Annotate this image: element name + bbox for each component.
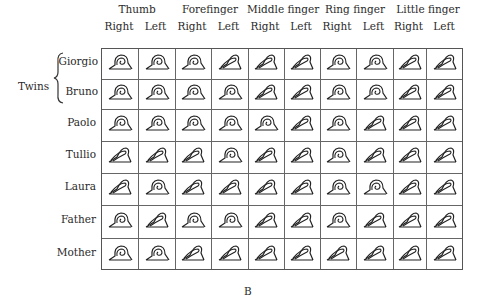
whorl-pattern-icon bbox=[325, 52, 351, 76]
whorl-pattern-icon bbox=[144, 52, 170, 76]
finger-header-middle: Middle finger bbox=[247, 3, 319, 15]
fingerprint-cell bbox=[426, 79, 464, 109]
whorl-pattern-icon bbox=[107, 243, 133, 267]
fingerprint-cell bbox=[138, 238, 175, 271]
fingerprint-cell bbox=[356, 79, 393, 109]
row-label-bruno: Bruno bbox=[6, 85, 98, 97]
hand-header: Right bbox=[174, 20, 210, 32]
fingerprint-cell bbox=[284, 173, 320, 205]
fingerprint-cell bbox=[320, 109, 356, 141]
fingerprint-cell bbox=[175, 109, 211, 141]
fingerprint-cell bbox=[320, 173, 356, 205]
fingerprint-cell bbox=[393, 109, 426, 141]
fingerprint-cell bbox=[356, 173, 393, 205]
finger-header-forefinger: Forefinger bbox=[174, 3, 246, 15]
whorl-pattern-icon bbox=[217, 210, 243, 234]
fingerprint-cell bbox=[426, 205, 464, 238]
fingerprint-cell bbox=[175, 205, 211, 238]
loop-pattern-icon bbox=[397, 243, 423, 267]
finger-header-thumb: Thumb bbox=[101, 3, 173, 15]
fingerprint-cell bbox=[320, 141, 356, 173]
loop-pattern-icon bbox=[144, 145, 170, 169]
whorl-pattern-icon bbox=[362, 52, 388, 76]
fingerprint-cell bbox=[102, 238, 138, 271]
hand-header: Left bbox=[210, 20, 247, 32]
fingerprint-cell bbox=[426, 109, 464, 141]
loop-pattern-icon bbox=[180, 145, 206, 169]
loop-pattern-icon bbox=[253, 177, 279, 201]
fingerprint-cell bbox=[248, 79, 284, 109]
whorl-pattern-icon bbox=[217, 82, 243, 106]
fingerprint-cell bbox=[393, 238, 426, 271]
loop-pattern-icon bbox=[289, 243, 315, 267]
figure-label: B bbox=[244, 285, 252, 297]
loop-pattern-icon bbox=[253, 52, 279, 76]
whorl-pattern-icon bbox=[325, 177, 351, 201]
fingerprint-cell bbox=[393, 49, 426, 79]
fingerprint-cell bbox=[102, 173, 138, 205]
row-label-paolo: Paolo bbox=[6, 116, 96, 128]
loop-pattern-icon bbox=[397, 210, 423, 234]
fingerprint-cell bbox=[211, 79, 248, 109]
fingerprint-cell bbox=[175, 238, 211, 271]
loop-pattern-icon bbox=[289, 145, 315, 169]
fingerprint-cell bbox=[102, 79, 138, 109]
hand-header: Right bbox=[247, 20, 283, 32]
whorl-pattern-icon bbox=[362, 82, 388, 106]
hand-header: Left bbox=[137, 20, 174, 32]
loop-pattern-icon bbox=[362, 210, 388, 234]
fingerprint-cell bbox=[284, 49, 320, 79]
fingerprint-cell bbox=[248, 205, 284, 238]
fingerprint-cell bbox=[138, 205, 175, 238]
fingerprint-cell bbox=[356, 205, 393, 238]
hand-header: Left bbox=[425, 20, 463, 32]
loop-pattern-icon bbox=[144, 210, 170, 234]
loop-pattern-icon bbox=[432, 243, 458, 267]
row-label-tullio: Tullio bbox=[6, 148, 96, 160]
whorl-pattern-icon bbox=[180, 52, 206, 76]
row-label-father: Father bbox=[6, 213, 96, 225]
fingerprint-cell bbox=[211, 141, 248, 173]
loop-pattern-icon bbox=[432, 113, 458, 137]
whorl-pattern-icon bbox=[180, 210, 206, 234]
fingerprint-cell bbox=[248, 173, 284, 205]
fingerprint-cell bbox=[284, 238, 320, 271]
fingerprint-cell bbox=[211, 49, 248, 79]
fingerprint-cell bbox=[248, 141, 284, 173]
loop-pattern-icon bbox=[289, 82, 315, 106]
loop-pattern-icon bbox=[217, 52, 243, 76]
row-label-laura: Laura bbox=[6, 180, 96, 192]
whorl-pattern-icon bbox=[253, 113, 279, 137]
fingerprint-cell bbox=[356, 109, 393, 141]
whorl-pattern-icon bbox=[217, 145, 243, 169]
fingerprint-cell bbox=[175, 173, 211, 205]
row-label-mother: Mother bbox=[6, 246, 96, 258]
fingerprint-cell bbox=[102, 109, 138, 141]
loop-pattern-icon bbox=[432, 177, 458, 201]
fingerprint-cell bbox=[102, 205, 138, 238]
fingerprint-cell bbox=[426, 173, 464, 205]
loop-pattern-icon bbox=[362, 243, 388, 267]
fingerprint-cell bbox=[356, 141, 393, 173]
loop-pattern-icon bbox=[217, 177, 243, 201]
loop-pattern-icon bbox=[325, 243, 351, 267]
finger-header-ring: Ring finger bbox=[319, 3, 391, 15]
fingerprint-cell bbox=[102, 49, 138, 79]
fingerprint-cell bbox=[138, 173, 175, 205]
fingerprint-cell bbox=[320, 238, 356, 271]
loop-pattern-icon bbox=[107, 145, 133, 169]
fingerprint-cell bbox=[393, 205, 426, 238]
loop-pattern-icon bbox=[217, 243, 243, 267]
hand-header: Left bbox=[283, 20, 319, 32]
fingerprint-cell bbox=[393, 79, 426, 109]
fingerprint-cell bbox=[284, 205, 320, 238]
loop-pattern-icon bbox=[289, 113, 315, 137]
loop-pattern-icon bbox=[253, 210, 279, 234]
fingerprint-cell bbox=[102, 141, 138, 173]
whorl-pattern-icon bbox=[144, 82, 170, 106]
fingerprint-cell bbox=[393, 173, 426, 205]
whorl-pattern-icon bbox=[144, 243, 170, 267]
fingerprint-cell bbox=[356, 238, 393, 271]
loop-pattern-icon bbox=[432, 82, 458, 106]
loop-pattern-icon bbox=[289, 52, 315, 76]
